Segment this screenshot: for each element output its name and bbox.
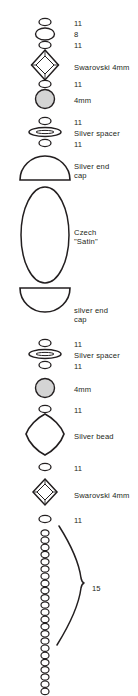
silver-bead-diamond-shape: [26, 414, 64, 455]
seed-bead-15: [41, 566, 49, 572]
component-label: 15: [92, 584, 101, 593]
silver-end-cap-bottom-shape: [20, 288, 70, 312]
bead-column-graphic: [0, 0, 138, 696]
seed-bead-15: [41, 645, 49, 651]
component-label: 4mm: [74, 385, 91, 394]
component-label: Silver bead: [74, 432, 114, 441]
seed-bead-15: [41, 674, 49, 680]
seed-bead-15: [41, 530, 49, 536]
seed-bead-15: [41, 602, 49, 608]
component-label: 11: [74, 19, 82, 28]
seed-bead-15: [41, 659, 49, 665]
seed-bead-15: [41, 537, 49, 543]
component-label: 11: [74, 406, 82, 415]
silver-spacer-bottom-shape: [29, 350, 61, 359]
component-label: 11: [74, 41, 82, 50]
component-label: 11: [74, 118, 82, 127]
seed-bead-11-second-shape: [39, 41, 51, 48]
czech-satin-bead-shape: [21, 187, 69, 283]
component-label: Silver end cap: [74, 162, 109, 181]
seed-bead-15: [41, 587, 49, 593]
seed-bead-15: [41, 609, 49, 615]
brace-15-shape: [57, 526, 84, 645]
silver-spacer-top-shape: [29, 128, 61, 137]
component-label: Silver spacer: [74, 129, 120, 138]
seed-bead-15: [41, 595, 49, 601]
seed-bead-8-shape: [36, 28, 55, 40]
seed-bead-15: [41, 631, 49, 637]
component-label: Swarovski 4mm: [74, 63, 130, 72]
seed-bead-11-ninth-shape: [39, 463, 51, 470]
seed-bead-11-sixth-shape: [39, 339, 51, 346]
seed-bead-15: [41, 580, 49, 586]
seed-bead-15: [41, 573, 49, 579]
seed-bead-11-seventh-shape: [39, 361, 51, 368]
seed-bead-15: [41, 551, 49, 557]
component-label: 11: [74, 362, 82, 371]
seed-bead-15: [41, 623, 49, 629]
component-label: 8: [74, 30, 78, 39]
seed-bead-15: [41, 616, 49, 622]
component-label: silver end cap: [74, 306, 108, 325]
seed-bead-15-column-shapes: [41, 530, 49, 695]
component-label: Silver spacer: [74, 351, 120, 360]
seed-bead-15: [41, 559, 49, 565]
component-label: 4mm: [74, 96, 91, 105]
component-label: 11: [74, 516, 82, 525]
round-bead-4mm-top-shape: [36, 90, 55, 109]
round-bead-4mm-bottom-shape: [36, 379, 55, 398]
seed-bead-15: [41, 638, 49, 644]
component-label: 11: [74, 80, 82, 89]
seed-bead-15: [41, 667, 49, 673]
component-label: Czech "Satin": [74, 228, 98, 247]
component-label: 11: [74, 140, 82, 149]
swarovski-bicone-bottom-shape: [33, 479, 57, 505]
seed-bead-11-eighth-shape: [39, 405, 51, 412]
seed-bead-11-tenth-shape: [39, 515, 51, 522]
seed-bead-15: [41, 544, 49, 550]
seed-bead-15: [41, 652, 49, 658]
silver-end-cap-top-shape: [20, 156, 70, 180]
seed-bead-15: [41, 688, 49, 694]
component-label: Swarovski 4mm: [74, 491, 130, 500]
seed-bead-11-top-shape: [39, 18, 51, 25]
seed-bead-11-third-shape: [39, 80, 51, 87]
component-label: 11: [74, 340, 82, 349]
swarovski-bicone-top-shape: [32, 50, 59, 80]
component-label: 11: [74, 464, 82, 473]
seed-bead-11-fourth-shape: [39, 117, 51, 124]
seed-bead-11-fifth-shape: [39, 139, 51, 146]
seed-bead-15: [41, 681, 49, 687]
beading-pattern-diagram: 11811Swarovski 4mm114mm11Silver spacer11…: [0, 0, 138, 696]
